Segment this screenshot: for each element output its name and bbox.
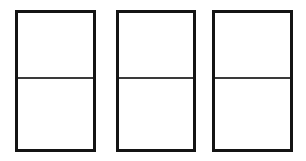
panel-1[interactable]: [15, 10, 96, 152]
panel-3-lower-section[interactable]: [215, 79, 290, 149]
panel-2[interactable]: [116, 10, 196, 152]
panel-1-lower-section[interactable]: [18, 79, 93, 149]
panel-3[interactable]: [212, 10, 293, 152]
diagram-canvas: [0, 0, 306, 161]
panel-2-upper-section[interactable]: [119, 13, 193, 77]
panel-3-upper-section[interactable]: [215, 13, 290, 77]
panel-2-lower-section[interactable]: [119, 79, 193, 149]
panel-1-upper-section[interactable]: [18, 13, 93, 77]
